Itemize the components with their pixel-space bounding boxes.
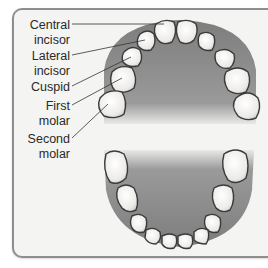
label-first-molar: First molar — [39, 99, 70, 129]
label-column: Central incisor Lateral incisor Cuspid F… — [0, 0, 268, 268]
label-cuspid: Cuspid — [31, 80, 70, 95]
label-central-incisor: Central incisor — [30, 18, 70, 48]
label-second-molar: Second molar — [28, 132, 70, 162]
label-lateral-incisor: Lateral incisor — [32, 49, 70, 79]
